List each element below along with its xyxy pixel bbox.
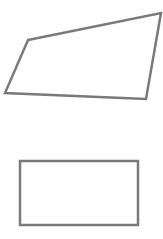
diagram-canvas — [0, 0, 163, 239]
rectangle-shape — [20, 161, 138, 225]
quadrilateral-shape — [5, 13, 161, 99]
